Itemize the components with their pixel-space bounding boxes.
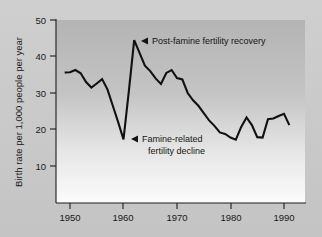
annotation-famine-related-decline-line1: Famine-related [142, 134, 203, 144]
annotation-post-famine-recovery-text: Post-famine fertility recovery [152, 36, 266, 46]
y-tick-label-50: 50 [35, 15, 46, 26]
x-tick-label-1950: 1950 [59, 212, 80, 223]
y-tick-label-30: 30 [35, 88, 46, 99]
birth-rate-line-chart: 50 40 30 20 10 1950 1960 1970 1980 1990 … [0, 0, 322, 237]
y-axis-title: Birth rate per 1,000 people per year [13, 37, 24, 187]
chart-figure: 50 40 30 20 10 1950 1960 1970 1980 1990 … [0, 0, 322, 237]
y-tick-label-10: 10 [35, 161, 46, 172]
x-tick-label-1990: 1990 [273, 212, 294, 223]
plot-panel [56, 20, 305, 203]
x-tick-label-1980: 1980 [220, 212, 241, 223]
x-tick-label-1970: 1970 [166, 212, 187, 223]
x-tick-label-1960: 1960 [112, 212, 133, 223]
annotation-famine-related-decline-line2: fertility decline [148, 146, 205, 156]
annotation-post-famine-recovery: Post-famine fertility recovery [141, 36, 266, 46]
y-tick-label-40: 40 [35, 51, 46, 62]
y-tick-label-20: 20 [35, 124, 46, 135]
